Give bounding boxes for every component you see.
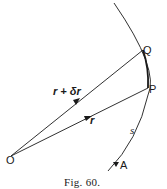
label-s: s: [130, 124, 134, 136]
label-r-plus-delta-r: r + δr: [53, 85, 82, 97]
label-q: Q: [143, 44, 152, 56]
trajectory-curve: [108, 3, 150, 171]
label-p: P: [149, 83, 156, 95]
label-r: r: [90, 114, 95, 126]
label-o: O: [6, 154, 15, 166]
figure-caption: Fig. 60.: [64, 176, 100, 188]
label-a: A: [120, 159, 128, 171]
figure-diagram: O Q P A r + δr r s Fig. 60.: [0, 0, 167, 189]
